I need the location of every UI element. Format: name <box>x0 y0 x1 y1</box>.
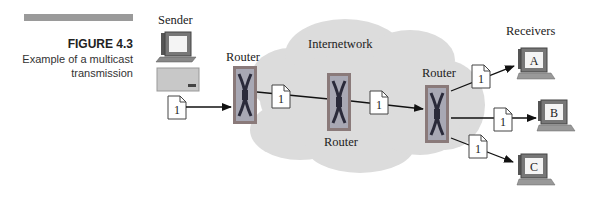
packet-label: 1 <box>376 98 382 112</box>
receiver-b-computer-icon: B <box>537 100 575 131</box>
receiver-c-label: C <box>530 160 538 174</box>
router-right-label: Router <box>422 66 456 81</box>
packet-icon: 1 <box>472 65 490 88</box>
internetwork-label: Internetwork <box>308 37 373 52</box>
packet-icon: 1 <box>494 108 512 131</box>
packet-icon: 1 <box>168 96 186 119</box>
receiver-a-label: A <box>530 54 539 68</box>
packet-label: 1 <box>475 142 481 156</box>
packet-icon: 1 <box>469 135 487 158</box>
sender-label: Sender <box>158 13 193 28</box>
packet-icon: 1 <box>370 91 388 114</box>
router-left-label: Router <box>226 50 260 65</box>
packet-label: 1 <box>500 115 506 129</box>
router-middle-icon <box>327 73 351 131</box>
packet-label: 1 <box>478 72 484 86</box>
receiver-b-label: B <box>550 106 558 120</box>
receiver-a-computer-icon: A <box>517 48 555 79</box>
packet-icon: 1 <box>272 85 290 108</box>
packet-label: 1 <box>278 92 284 106</box>
sender-computer-icon <box>156 32 199 91</box>
packet-label: 1 <box>174 103 180 117</box>
router-left-icon <box>233 66 257 124</box>
router-right-icon <box>425 85 449 143</box>
router-middle-label: Router <box>324 135 358 150</box>
receiver-c-computer-icon: C <box>517 154 555 185</box>
receivers-label: Receivers <box>506 24 555 39</box>
